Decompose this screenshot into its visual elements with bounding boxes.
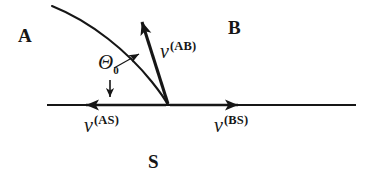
- v-as-superscript: (AS): [94, 113, 119, 127]
- v-as-symbol: ν: [84, 114, 93, 136]
- vector-label-v-as: ν(AS): [84, 114, 119, 135]
- diagram-svg: [0, 0, 374, 185]
- v-bs-symbol: ν: [214, 114, 223, 136]
- v-ab-arrow-shaft: [142, 22, 168, 104]
- figure-canvas: A B S Θ0 ν(AB) ν(AS) ν(BS): [0, 0, 374, 185]
- angle-label-theta-zero: Θ0: [98, 52, 119, 76]
- region-label-b: B: [228, 18, 241, 37]
- theta-symbol: Θ: [98, 50, 113, 74]
- region-label-s: S: [148, 152, 159, 171]
- vector-label-v-ab: ν(AB): [160, 40, 196, 61]
- v-ab-symbol: ν: [160, 40, 169, 62]
- v-ab-superscript: (AB): [170, 39, 197, 53]
- vector-arrow-v-ab: [142, 22, 168, 104]
- theta-subscript: 0: [113, 64, 119, 76]
- vector-label-v-bs: ν(BS): [214, 114, 248, 135]
- v-bs-superscript: (BS): [224, 113, 248, 127]
- region-label-a: A: [18, 26, 32, 45]
